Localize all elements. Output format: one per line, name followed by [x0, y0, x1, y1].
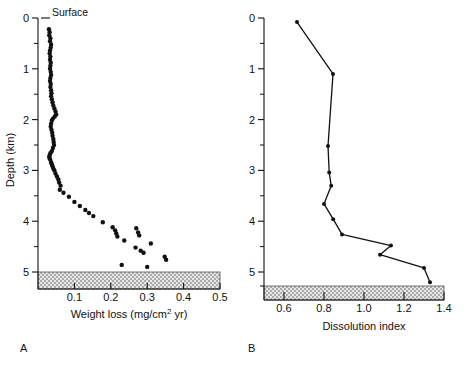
line-marker	[422, 266, 426, 270]
scatter-point	[87, 211, 91, 215]
x-ticklabels-b: 0.6 0.8 1.0 1.2 1.4	[276, 302, 451, 314]
scatter-point	[78, 204, 82, 208]
y-ticklabel: 3	[249, 164, 255, 176]
y-axis-label-a: Depth (km)	[4, 133, 16, 187]
scatter-point	[67, 195, 71, 199]
x-ticklabel: 0.8	[316, 302, 331, 314]
x-ticklabel: 0.2	[103, 291, 118, 303]
x-axis-label-b: Dissolution index	[322, 320, 406, 332]
y-ticklabel: 5	[23, 266, 29, 278]
scatter-point	[58, 188, 62, 192]
scatter-points-a	[47, 27, 169, 269]
y-ticks-b	[258, 18, 264, 286]
dissolution-index-line	[297, 22, 430, 282]
x-ticklabels-a: 0.1 0.2 0.3 0.4 0.5	[67, 291, 228, 303]
panel-letter-a: A	[20, 342, 28, 354]
seafloor-band-a	[38, 272, 220, 289]
panel-letter-b: B	[248, 342, 255, 354]
line-marker	[331, 72, 335, 76]
scatter-point	[61, 191, 65, 195]
x-ticklabel: 0.3	[140, 291, 155, 303]
scatter-point	[134, 226, 138, 230]
scatter-point	[149, 241, 153, 245]
figure-svg: 0 1 2 3 4 5 Surface 0.1 0.2 0.3	[0, 0, 467, 370]
y-ticklabel: 1	[23, 63, 29, 75]
scatter-point	[101, 220, 105, 224]
y-ticklabel: 3	[23, 164, 29, 176]
scatter-point	[137, 233, 141, 237]
panel-a: 0 1 2 3 4 5 Surface 0.1 0.2 0.3	[4, 6, 228, 354]
line-marker	[389, 244, 393, 248]
y-ticklabels-a: 0 1 2 3 4 5	[23, 12, 29, 278]
scatter-point	[133, 245, 137, 249]
y-ticklabel: 4	[23, 215, 29, 227]
line-marker	[329, 184, 333, 188]
line-markers-b	[295, 20, 432, 284]
seafloor-band-b	[264, 286, 444, 300]
x-ticklabel: 0.4	[176, 291, 191, 303]
y-ticklabel: 1	[249, 63, 255, 75]
line-marker	[295, 20, 299, 24]
line-marker	[326, 144, 330, 148]
scatter-point	[58, 183, 62, 187]
figure-root: 0 1 2 3 4 5 Surface 0.1 0.2 0.3	[0, 0, 467, 370]
scatter-point	[122, 238, 126, 242]
line-marker	[340, 232, 344, 236]
scatter-point	[91, 214, 95, 218]
scatter-point	[141, 251, 145, 255]
y-ticklabel: 0	[23, 12, 29, 24]
scatter-point	[115, 234, 119, 238]
scatter-point	[120, 263, 124, 267]
line-marker	[378, 253, 382, 257]
y-ticklabel: 2	[23, 114, 29, 126]
y-ticklabel: 5	[249, 266, 255, 278]
y-ticks-a	[32, 18, 38, 272]
line-marker	[327, 170, 331, 174]
y-ticklabel: 2	[249, 114, 255, 126]
line-marker	[322, 202, 326, 206]
line-marker	[428, 280, 432, 284]
x-ticklabel: 1.4	[436, 302, 451, 314]
x-ticklabel: 0.6	[276, 302, 291, 314]
surface-label-a: Surface	[52, 6, 88, 18]
line-marker	[331, 217, 335, 221]
y-ticklabels-b: 0 1 2 3 4 5	[249, 12, 255, 278]
y-ticklabel: 4	[249, 215, 255, 227]
x-ticklabel: 0.5	[212, 291, 227, 303]
x-ticklabel: 1.2	[396, 302, 411, 314]
scatter-point	[164, 258, 168, 262]
x-axis-label-a: Weight loss (mg/cm2 yr)	[71, 307, 188, 320]
x-ticklabel: 1.0	[356, 302, 371, 314]
y-ticklabel: 0	[249, 12, 255, 24]
panel-b: 0 1 2 3 4 5 0.6 0.8 1.0 1.2 1.4	[248, 12, 452, 354]
x-ticklabel: 0.1	[67, 291, 82, 303]
scatter-point	[83, 208, 87, 212]
scatter-point	[72, 200, 76, 204]
scatter-point	[145, 265, 149, 269]
